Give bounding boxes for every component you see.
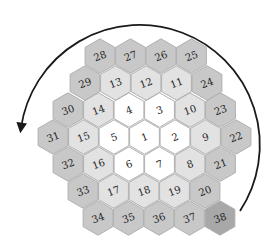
hex-cell-22: 22: [221, 120, 251, 154]
hexagon-spiral-diagram: 2827262529131211243014431023311551292232…: [0, 0, 276, 248]
hex-grid: 2827262529131211243014431023311551292232…: [38, 39, 251, 235]
